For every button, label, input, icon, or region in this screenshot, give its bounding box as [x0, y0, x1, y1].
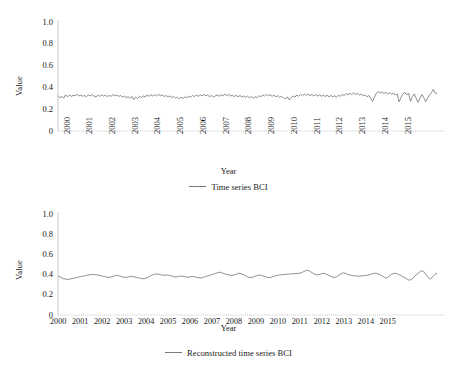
x-tick-label: 2010 — [289, 117, 299, 134]
series-line-0 — [58, 89, 437, 102]
x-tick-label: 2015 — [403, 117, 413, 134]
y-tick-label: 0 — [25, 311, 53, 320]
y-axis-title-bottom: Value — [14, 260, 24, 280]
x-tick-label: 2013 — [357, 117, 367, 134]
x-tick-label: 2005 — [175, 117, 185, 134]
y-tick-label: 0.6 — [25, 61, 53, 70]
legend-line-swatch-bottom — [165, 352, 182, 353]
x-tick-label: 2012 — [334, 117, 344, 134]
y-tick-label: 1.0 — [25, 210, 53, 219]
chart-panel-top: Value 1.00.80.60.40.20 20002001200220032… — [0, 0, 457, 196]
y-axis-title-top: Value — [14, 76, 24, 96]
y-tick-label: 0.8 — [25, 39, 53, 48]
x-tick-label: 2003 — [130, 117, 140, 134]
x-axis-title-bottom: Year — [0, 323, 457, 333]
x-tick-label: 2002 — [107, 117, 117, 134]
y-tick-label: 0.2 — [25, 105, 53, 114]
y-tick-label: 0.2 — [25, 290, 53, 299]
series-line-1 — [58, 270, 437, 280]
x-tick-label: 2006 — [198, 117, 208, 134]
x-tick-label: 2008 — [243, 117, 253, 134]
x-axis-title-top: Year — [0, 166, 457, 176]
chart-panel-bottom: Value 1.00.80.60.40.20 20002001200220032… — [0, 190, 457, 380]
y-tick-label: 0 — [25, 127, 53, 136]
x-tick-label: 2004 — [152, 117, 162, 134]
legend-label-bottom: Reconstructed time series BCI — [187, 348, 292, 358]
legend-bottom: Reconstructed time series BCI — [0, 347, 457, 358]
y-tick-label: 0.4 — [25, 83, 53, 92]
x-tick-label: 2000 — [62, 117, 72, 134]
x-tick-label: 2007 — [221, 117, 231, 134]
x-tick-label: 2014 — [380, 117, 390, 134]
x-tick-label: 2001 — [84, 117, 94, 134]
y-tick-label: 0.4 — [25, 270, 53, 279]
y-tick-label: 0.6 — [25, 250, 53, 259]
legend-line-swatch-top — [189, 186, 206, 187]
x-tick-label: 2009 — [266, 117, 276, 134]
two-panel-time-series-figure: Value 1.00.80.60.40.20 20002001200220032… — [0, 0, 457, 380]
y-tick-label: 0.8 — [25, 230, 53, 239]
y-tick-label: 1.0 — [25, 18, 53, 27]
x-tick-label: 2011 — [312, 117, 322, 134]
